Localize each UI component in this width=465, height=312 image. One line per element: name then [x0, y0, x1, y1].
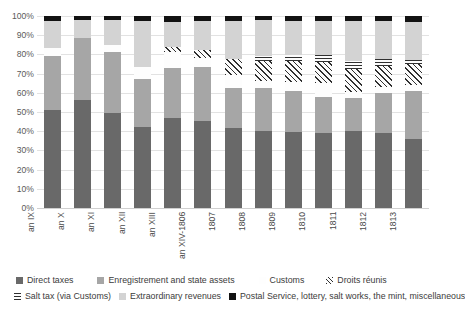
bar-segment — [44, 16, 61, 21]
bar-segment — [194, 50, 211, 59]
bar-segment — [345, 98, 362, 132]
bar-segment — [285, 91, 302, 132]
bar-an-XII — [134, 16, 151, 208]
legend-label: Extraordinary revenues — [130, 291, 221, 301]
legend-swatch-icon — [119, 293, 126, 300]
bar-segment — [194, 21, 211, 50]
bar-segment — [74, 100, 91, 208]
bar-segment — [225, 59, 242, 74]
bar-an-XIII — [164, 16, 181, 208]
y-axis-tick-label: 40% — [0, 127, 34, 136]
legend-row: Direct taxesEnregistrement and state ass… — [0, 272, 436, 288]
y-axis-tick-label: 70% — [0, 70, 34, 79]
legend-swatch-icon — [259, 277, 266, 284]
bar-segment — [255, 16, 272, 20]
bar-segment — [405, 60, 422, 64]
bar-1807 — [225, 16, 242, 208]
bar-segment — [405, 139, 422, 208]
legend-swatch-icon — [14, 293, 21, 300]
bar-1812 — [375, 16, 392, 208]
bar-segment — [255, 56, 272, 61]
bar-segment — [375, 16, 392, 21]
bar-segment — [194, 67, 211, 121]
bar-segment — [405, 16, 422, 22]
bar-segment — [225, 88, 242, 128]
bar-segment — [104, 20, 121, 45]
plot-area — [37, 16, 429, 208]
bar-segment — [255, 88, 272, 131]
bar-segment — [285, 16, 302, 21]
legend-item: Droits réunis — [326, 275, 386, 285]
bar-segment — [315, 55, 332, 62]
bar-segment — [345, 16, 362, 21]
bar-segment — [134, 67, 151, 79]
bar-segment — [315, 21, 332, 56]
legend-item: Salt tax (via Customs) — [14, 291, 111, 301]
bar-segment — [134, 127, 151, 208]
legend-item: Customs — [259, 275, 305, 285]
bar-segment — [164, 22, 181, 47]
bar-segment — [315, 83, 332, 96]
bar-segment — [345, 131, 362, 208]
bar-segment — [375, 66, 392, 87]
legend-row: Salt tax (via Customs)Extraordinary reve… — [0, 288, 436, 304]
y-axis-tick-label: 80% — [0, 50, 34, 59]
bar-1810 — [315, 16, 332, 208]
bar-segment — [315, 133, 332, 208]
bar-segment — [345, 92, 362, 98]
bar-segment — [315, 16, 332, 21]
bar-segment — [285, 82, 302, 91]
bar-segment — [134, 16, 151, 21]
legend-item: Enregistrement and state assets — [97, 275, 234, 285]
bar-segment — [405, 91, 422, 139]
bar-1811 — [345, 16, 362, 208]
bar-1813 — [405, 16, 422, 208]
y-axis-tick-label: 90% — [0, 31, 34, 40]
bar-segment — [44, 21, 61, 48]
bar-segment — [375, 59, 392, 66]
y-axis-tick-label: 10% — [0, 185, 34, 194]
bar-segment — [134, 21, 151, 67]
bar-segment — [255, 81, 272, 88]
bar-segment — [74, 20, 91, 38]
bar-segment — [315, 97, 332, 133]
legend-label: Droits réunis — [337, 275, 386, 285]
bar-segment — [375, 133, 392, 208]
legend-label: Postal Service, lottery, salt works, the… — [240, 291, 465, 301]
bar-segment — [285, 132, 302, 208]
x-axis-tick-label: 1813 — [388, 212, 440, 262]
bar-segment — [285, 61, 302, 82]
bar-segment — [104, 113, 121, 208]
bar-1809 — [285, 16, 302, 208]
bar-segment — [375, 21, 392, 59]
bar-segment — [104, 52, 121, 113]
bar-segment — [405, 85, 422, 91]
bar-segment — [285, 55, 302, 61]
bar-segment — [405, 64, 422, 85]
bar-segment — [194, 58, 211, 67]
bar-segment — [44, 110, 61, 208]
legend-label: Salt tax (via Customs) — [25, 291, 111, 301]
bar-segment — [225, 75, 242, 88]
legend-label: Customs — [270, 275, 305, 285]
chart-legend: Direct taxesEnregistrement and state ass… — [0, 272, 436, 304]
bar-segment — [225, 128, 242, 208]
bar-an-XIV-1806 — [194, 16, 211, 208]
bar-an-IX — [44, 16, 61, 208]
bar-segment — [285, 21, 302, 56]
bar-segment — [255, 131, 272, 208]
bar-segment — [164, 118, 181, 208]
bar-segment — [164, 68, 181, 118]
bar-segment — [164, 16, 181, 22]
y-axis-tick-label: 50% — [0, 108, 34, 117]
bar-segment — [255, 61, 272, 81]
bar-segment — [375, 87, 392, 93]
bar-segment — [194, 121, 211, 208]
bar-segment — [405, 22, 422, 60]
y-axis-tick-label: 30% — [0, 146, 34, 155]
legend-swatch-icon — [326, 277, 333, 284]
legend-item: Extraordinary revenues — [119, 291, 221, 301]
legend-label: Direct taxes — [27, 275, 73, 285]
bar-segment — [44, 48, 61, 57]
